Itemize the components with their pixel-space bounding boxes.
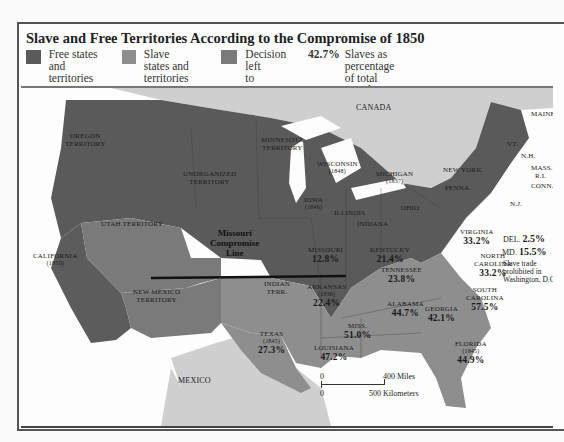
unorg-l2: TERRITORY bbox=[189, 178, 230, 186]
label-vt: VT. bbox=[507, 140, 518, 148]
tn-name: TENNESSEE bbox=[381, 266, 422, 274]
label-ri: R.I. bbox=[535, 172, 546, 180]
wi-year: (1848) bbox=[317, 168, 358, 175]
va-name: VIRGINIA bbox=[460, 228, 493, 236]
ia-year: (1846) bbox=[304, 204, 323, 211]
legend-pct-sample: 42.7% bbox=[308, 48, 340, 60]
mo-pct: 12.8% bbox=[308, 254, 343, 264]
unorg-l1: UNORGANIZED bbox=[183, 170, 236, 178]
label-indiana: INDIANA bbox=[357, 220, 388, 228]
label-del: DEL. 2.5% bbox=[503, 234, 545, 244]
label-louisiana: LOUISIANA47.2% bbox=[314, 344, 354, 362]
label-mexico: MEXICO bbox=[178, 377, 211, 385]
label-new-york: NEW YORK bbox=[443, 166, 482, 174]
nm-l1: NEW MEXICO bbox=[133, 288, 180, 296]
legend-free-label: Free states and bbox=[49, 48, 98, 72]
ar-year: (1836) bbox=[307, 291, 346, 298]
label-new-mexico: NEW MEXICOTERRITORY bbox=[133, 288, 180, 304]
legend-slave: Slave states andterritories bbox=[122, 48, 195, 84]
mc-l2: Compromise bbox=[210, 238, 259, 248]
label-miss: MISS.51.0% bbox=[344, 322, 371, 340]
legend-free-label-2: territories bbox=[49, 72, 94, 84]
sc-l1: SOUTH bbox=[473, 286, 497, 294]
scale-tick bbox=[384, 379, 385, 384]
missouri-compromise-label: MissouriCompromiseLine bbox=[210, 228, 259, 258]
label-alabama: ALABAMA44.7% bbox=[387, 300, 424, 318]
label-wisconsin: WISCONSIN(1848) bbox=[317, 160, 358, 175]
map-area: CANADA MEXICO OREGONTERRITORY UNORGANIZE… bbox=[21, 86, 553, 428]
scale-km: 500 Kilometers bbox=[369, 389, 419, 398]
minn-l2: TERRITORY bbox=[262, 144, 303, 152]
mo-name: MISSOURI bbox=[308, 246, 343, 254]
label-iowa: IOWA(1846) bbox=[304, 196, 323, 211]
oregon-l2: TERRITORY bbox=[65, 140, 106, 148]
label-mass: MASS. bbox=[531, 164, 553, 172]
label-illinois: ILLINOIS bbox=[334, 209, 365, 217]
label-conn: CONN. bbox=[531, 182, 553, 190]
label-florida: FLORIDA(1845)44.9% bbox=[455, 340, 487, 365]
minn-l1: MINNESOTA bbox=[261, 136, 303, 144]
ar-pct: 22.4% bbox=[307, 298, 346, 308]
ms-pct: 51.0% bbox=[344, 330, 371, 340]
al-pct: 44.7% bbox=[387, 308, 424, 318]
mi-name: MICHIGAN bbox=[376, 170, 413, 178]
al-name: ALABAMA bbox=[387, 300, 424, 308]
label-virginia: VIRGINIA33.2% bbox=[460, 228, 493, 246]
nc-l1: NORTH bbox=[481, 252, 506, 260]
sc-pct: 57.5% bbox=[466, 302, 504, 312]
label-georgia: GEORGIA42.1% bbox=[425, 305, 458, 323]
ia-name: IOWA bbox=[304, 196, 323, 204]
ky-pct: 21.4% bbox=[370, 254, 410, 264]
mc-l3: Line bbox=[226, 248, 244, 258]
oregon-l1: OREGON bbox=[70, 132, 100, 140]
fl-pct: 44.9% bbox=[455, 355, 487, 365]
ca-name: CALIFORNIA bbox=[33, 252, 77, 260]
label-indian-terr: INDIANTERR. bbox=[264, 280, 290, 296]
tn-pct: 23.8% bbox=[381, 274, 422, 284]
ga-pct: 42.1% bbox=[425, 313, 458, 323]
legend-decision-label: Decision left bbox=[245, 48, 286, 72]
sc-l2: CAROLINA bbox=[466, 294, 504, 302]
free-swatch bbox=[26, 50, 41, 64]
label-canada: CANADA bbox=[356, 104, 391, 112]
tx-pct: 27.3% bbox=[258, 345, 285, 355]
label-oregon: OREGONTERRITORY bbox=[65, 132, 106, 148]
tx-name: TEXAS bbox=[260, 330, 284, 338]
mi-year: (1837) bbox=[376, 178, 413, 185]
label-unorganized: UNORGANIZEDTERRITORY bbox=[183, 170, 236, 186]
del-name: DEL. bbox=[503, 235, 521, 244]
label-michigan: MICHIGAN(1837) bbox=[376, 170, 413, 185]
ar-name: ARKANSAS bbox=[307, 283, 346, 291]
fl-name: FLORIDA bbox=[455, 340, 487, 348]
label-north-carolina: NORTHCAROLINA33.2% bbox=[474, 252, 512, 278]
del-pct: 2.5% bbox=[523, 233, 546, 244]
label-missouri: MISSOURI12.8% bbox=[308, 246, 343, 264]
ga-name: GEORGIA bbox=[425, 305, 458, 313]
label-texas: TEXAS(1845)27.3% bbox=[258, 330, 285, 355]
label-utah: UTAH TERRITORY bbox=[101, 220, 163, 228]
scale-zero-miles: 0 bbox=[320, 372, 324, 381]
legend-slave-label-2: territories bbox=[144, 72, 189, 84]
scale-zero-km: 0 bbox=[320, 389, 324, 398]
legend-slave-label: Slave states and bbox=[144, 48, 189, 72]
it-l2: TERR. bbox=[267, 288, 288, 296]
ms-name: MISS. bbox=[348, 322, 367, 330]
wi-name: WISCONSIN bbox=[317, 160, 358, 168]
tx-year: (1845) bbox=[258, 338, 285, 345]
label-tennessee: TENNESSEE23.8% bbox=[381, 266, 422, 284]
md-pct: 15.5% bbox=[519, 246, 547, 257]
label-kentucky: KENTUCKY21.4% bbox=[370, 246, 410, 264]
nc-pct: 33.2% bbox=[474, 268, 512, 278]
label-ohio: OHIO bbox=[401, 204, 419, 212]
it-l1: INDIAN bbox=[264, 280, 290, 288]
label-penna: PENNA. bbox=[445, 184, 471, 192]
scale-line bbox=[321, 384, 385, 385]
label-nj: N.J. bbox=[510, 200, 522, 208]
label-arkansas: ARKANSAS(1836)22.4% bbox=[307, 283, 346, 308]
legend-free: Free states andterritories bbox=[26, 48, 99, 84]
la-pct: 47.2% bbox=[314, 352, 354, 362]
fl-year: (1845) bbox=[455, 348, 487, 355]
mc-l1: Missouri bbox=[218, 228, 252, 238]
ky-name: KENTUCKY bbox=[370, 246, 410, 254]
label-south-carolina: SOUTHCAROLINA57.5% bbox=[466, 286, 504, 312]
